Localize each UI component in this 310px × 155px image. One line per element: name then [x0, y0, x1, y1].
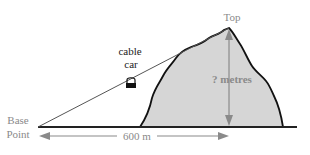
cable-car-label-line2: car — [124, 58, 138, 70]
cable-car-label-line1: cable — [118, 45, 141, 57]
base-label-line1: Base — [7, 114, 29, 126]
cable-car-mountain-diagram: Top cable car Base Point ? metres 600 m — [0, 0, 310, 155]
distance-label: 600 m — [123, 130, 151, 142]
distance-arrow-head-right — [218, 132, 229, 140]
top-label: Top — [224, 11, 241, 23]
distance-arrow-head-left — [39, 132, 50, 140]
base-label-line2: Point — [6, 128, 29, 140]
height-label: ? metres — [212, 73, 253, 85]
